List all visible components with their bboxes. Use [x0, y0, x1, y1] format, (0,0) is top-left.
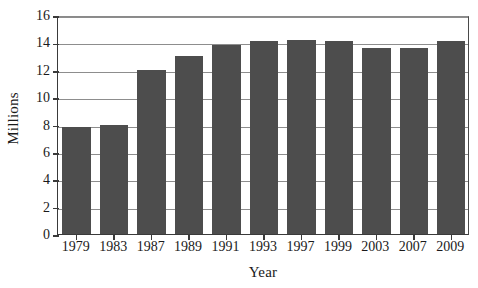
x-axis-tick-label: 2007 [399, 240, 427, 254]
y-axis-tick-mark [53, 126, 59, 128]
bar [62, 127, 90, 234]
x-axis-tick-label: 1987 [137, 240, 165, 254]
y-axis-tick-mark [53, 44, 59, 46]
y-axis-tick-mark [53, 235, 59, 237]
y-axis-tick-label: 2 [43, 201, 50, 215]
y-axis-tick-label: 8 [43, 119, 50, 133]
x-axis-tick-mark [301, 234, 302, 240]
x-axis-tick-label: 1991 [212, 240, 240, 254]
y-axis-tick-label: 16 [36, 9, 50, 23]
x-axis-tick-label: 1989 [174, 240, 202, 254]
x-axis-tick-label: 2009 [436, 240, 464, 254]
x-axis-tick-label: 1999 [324, 240, 352, 254]
y-axis-tick-mark [53, 71, 59, 73]
bar [437, 41, 465, 234]
bar [250, 41, 278, 234]
bar-chart: Millions 0246810121416 19791983198719891… [0, 0, 478, 288]
y-axis-tick-mark [53, 98, 59, 100]
x-axis-tick-mark [188, 234, 189, 240]
y-axis-tick-mark [53, 180, 59, 182]
bar [400, 48, 428, 234]
x-axis-tick-label: 1979 [62, 240, 90, 254]
y-axis-tick-label: 0 [43, 228, 50, 242]
y-axis-title: Millions [0, 0, 26, 236]
bar [137, 70, 165, 234]
x-axis-tick-label: 2003 [361, 240, 389, 254]
x-axis-tick-mark [413, 234, 414, 240]
bar [175, 56, 203, 234]
bar [212, 45, 240, 234]
x-axis-tick-mark [113, 234, 114, 240]
plot-area [57, 16, 469, 235]
x-axis-tick-label: 1997 [286, 240, 314, 254]
y-axis-tick-mark [53, 208, 59, 210]
bar [325, 41, 353, 234]
x-axis-tick-mark [338, 234, 339, 240]
y-axis-tick-label: 10 [36, 91, 50, 105]
x-axis-tick-mark [451, 234, 452, 240]
x-axis-tick-label: 1983 [99, 240, 127, 254]
y-axis-tick-mark [53, 153, 59, 155]
x-axis-tick-label: 1993 [249, 240, 277, 254]
x-axis-tick-mark [151, 234, 152, 240]
x-axis-tick-labels: 1979198319871989199119931997199920032007… [57, 240, 469, 260]
bar [287, 40, 315, 234]
bar [362, 48, 390, 234]
bar [100, 125, 128, 235]
x-axis-tick-mark [226, 234, 227, 240]
y-axis-tick-label: 4 [43, 173, 50, 187]
y-axis-tick-label: 14 [36, 36, 50, 50]
x-axis-title: Year [57, 264, 469, 281]
bar-series [58, 17, 468, 234]
y-axis-tick-labels: 0246810121416 [24, 0, 54, 244]
x-axis-tick-mark [376, 234, 377, 240]
y-axis-tick-label: 6 [43, 146, 50, 160]
y-axis-tick-label: 12 [36, 64, 50, 78]
y-axis-tick-mark [53, 16, 59, 18]
y-axis-title-text: Millions [5, 92, 22, 144]
x-axis-tick-mark [263, 234, 264, 240]
x-axis-tick-mark [76, 234, 77, 240]
